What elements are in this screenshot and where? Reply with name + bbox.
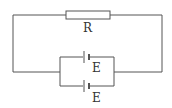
- battery-2-label: E: [92, 92, 101, 104]
- parallel-left-wire: [60, 57, 83, 86]
- right-wire: [110, 15, 162, 72]
- left-wire: [13, 15, 66, 72]
- resistor-label: R: [83, 22, 92, 34]
- circuit-diagram: R E E: [0, 0, 172, 108]
- battery-1-label: E: [92, 62, 101, 74]
- resistor-symbol: [66, 11, 110, 19]
- circuit-wires: [0, 0, 172, 108]
